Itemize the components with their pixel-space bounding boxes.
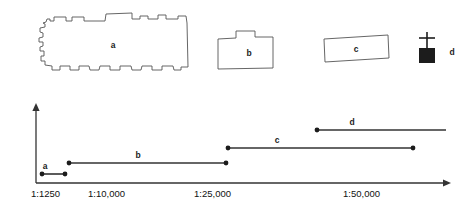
range-end-dot-a <box>63 172 68 177</box>
range-segment-c: c <box>226 135 416 150</box>
plan-label-c: c <box>354 44 359 54</box>
range-label-b: b <box>135 150 140 160</box>
plan-label-b: b <box>246 48 251 58</box>
x-axis-arrowhead <box>443 179 451 186</box>
range-end-dot-c <box>411 146 416 151</box>
plan-label-d: d <box>449 47 454 57</box>
scale-range-figure: a b c d a <box>0 0 476 212</box>
plan-group-a: a <box>39 13 188 70</box>
range-segment-b: b <box>67 150 229 165</box>
church-symbol-icon <box>419 48 435 63</box>
plan-label-a: a <box>111 40 116 50</box>
range-segment-a: a <box>40 161 68 176</box>
range-start-dot-b <box>67 161 72 166</box>
x-tick-label-2: 1:25,000 <box>194 188 231 199</box>
plan-group-b: b <box>218 31 273 69</box>
range-start-dot-a <box>40 172 45 177</box>
y-axis-arrowhead <box>32 103 39 111</box>
x-tick-label-1: 1:10,000 <box>88 188 125 199</box>
range-label-d: d <box>349 117 354 127</box>
range-label-c: c <box>275 135 280 145</box>
plan-group-d: d <box>419 32 455 63</box>
range-start-dot-c <box>226 146 231 151</box>
range-end-dot-b <box>224 161 229 166</box>
chart-axes <box>32 103 451 187</box>
range-label-a: a <box>43 161 48 171</box>
range-segment-d: d <box>315 117 446 132</box>
range-start-dot-d <box>315 128 320 133</box>
x-axis-tick-labels: 1:1250 1:10,000 1:25,000 1:50,000 <box>31 188 380 199</box>
plan-group-c: c <box>324 35 389 62</box>
x-tick-label-3: 1:50,000 <box>343 188 380 199</box>
figure-canvas: a b c d a <box>0 0 476 212</box>
x-tick-label-0: 1:1250 <box>31 188 60 199</box>
